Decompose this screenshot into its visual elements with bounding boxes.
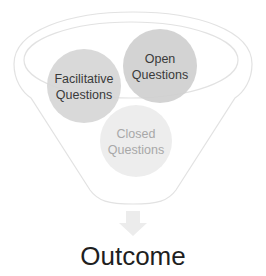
circle-label-line-1: Open	[145, 52, 176, 66]
circle-label-line-2: Questions	[56, 88, 112, 102]
funnel-diagram: Facilitative Questions Open Questions Cl…	[0, 0, 266, 276]
circle-shape	[123, 29, 197, 103]
outcome-label: Outcome	[80, 241, 186, 271]
circle-shape	[100, 105, 172, 177]
down-arrow-icon	[119, 211, 147, 236]
circle-label-line-2: Questions	[132, 68, 188, 82]
circle-label-line-2: Questions	[108, 143, 164, 157]
circle-open-questions: Open Questions	[123, 29, 197, 103]
circle-label-line-1: Facilitative	[54, 72, 113, 86]
circle-closed-questions: Closed Questions	[100, 105, 172, 177]
circle-shape	[47, 49, 121, 123]
circle-facilitative-questions: Facilitative Questions	[47, 49, 121, 123]
circle-label-line-1: Closed	[117, 127, 156, 141]
